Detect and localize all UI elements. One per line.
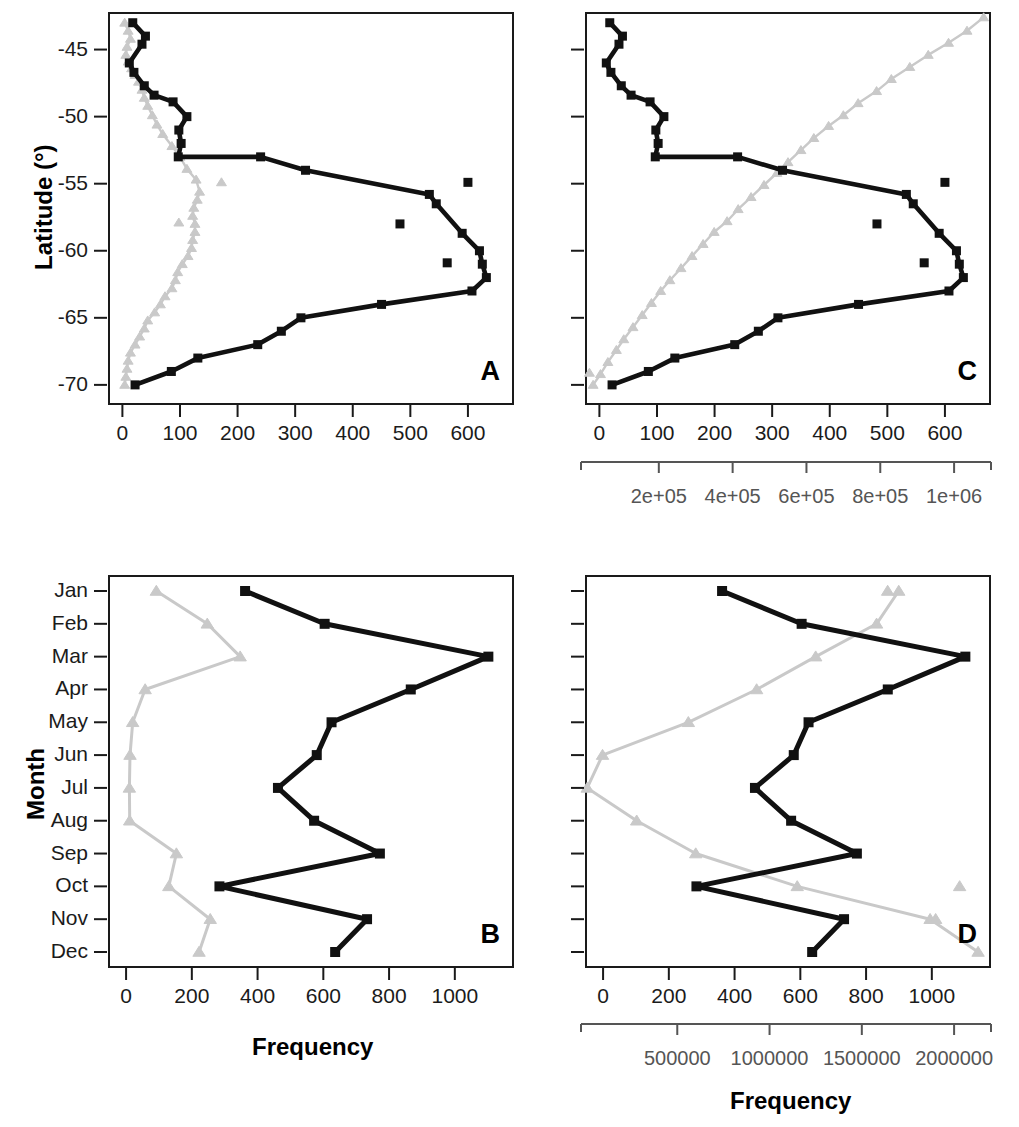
panel-b-ytick-Dec: Dec <box>14 939 88 963</box>
panel-b-ytick-Oct: Oct <box>14 873 88 897</box>
panel-d-xtick-1000: 1000 <box>892 984 972 1008</box>
frequency-axis-title-d: Frequency <box>730 1087 851 1115</box>
panel-c-secondary-xaxis <box>579 460 1019 482</box>
panel-a-ytick--45: -45 <box>20 37 88 61</box>
panel-c-sec-xtick-4: 1e+06 <box>899 485 1009 508</box>
panel-b-ytick-Feb: Feb <box>14 611 88 635</box>
panel-c-letter: C <box>958 356 978 387</box>
panel-b: B <box>108 575 514 968</box>
panel-d-letter: D <box>958 919 978 950</box>
panel-a-ytick--50: -50 <box>20 104 88 128</box>
month-axis-title: Month <box>22 748 50 820</box>
panel-a: A <box>108 12 514 405</box>
panel-b-ytick-Apr: Apr <box>14 676 88 700</box>
latitude-axis-title: Latitude (°) <box>30 144 58 270</box>
panel-b-ytick-May: May <box>14 709 88 733</box>
panel-d-xaxis-ticks <box>585 968 991 982</box>
panel-a-xtick-600: 600 <box>433 421 503 445</box>
panel-c-plot <box>585 12 991 405</box>
panel-b-ytick-Mar: Mar <box>14 644 88 668</box>
panel-b-xaxis-ticks <box>108 968 514 982</box>
panel-b-letter: B <box>481 919 501 950</box>
panel-d-secondary-xaxis <box>579 1022 1019 1044</box>
frequency-axis-title-b: Frequency <box>252 1033 373 1061</box>
panel-c-xaxis-ticks <box>585 405 991 419</box>
panel-b-ytick-Nov: Nov <box>14 906 88 930</box>
panel-c-yaxis-ticks <box>571 12 585 405</box>
panel-b-ytick-Jan: Jan <box>14 578 88 602</box>
panel-a-ytick--70: -70 <box>20 372 88 396</box>
panel-c-xtick-600: 600 <box>910 421 980 445</box>
panel-a-letter: A <box>481 356 501 387</box>
figure-root: A -45-50-55-60-65-70 0100200300400500600… <box>0 0 1019 1127</box>
panel-d: D <box>585 575 991 968</box>
panel-d-sec-xtick-3: 2000000 <box>884 1047 1019 1070</box>
panel-a-plot <box>108 12 514 405</box>
panel-a-yaxis-ticks <box>94 12 108 405</box>
panel-b-plot <box>108 575 514 968</box>
panel-d-yaxis-ticks <box>571 575 585 968</box>
panel-b-ytick-Sep: Sep <box>14 841 88 865</box>
panel-c: C <box>585 12 991 405</box>
panel-a-xaxis-ticks <box>108 405 514 419</box>
panel-a-ytick--65: -65 <box>20 305 88 329</box>
panel-d-plot <box>585 575 991 968</box>
panel-b-yaxis-ticks <box>94 575 108 968</box>
panel-b-xtick-1000: 1000 <box>415 984 495 1008</box>
